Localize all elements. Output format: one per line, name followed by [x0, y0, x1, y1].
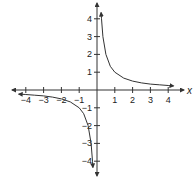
curve-positive-branch: [101, 13, 173, 86]
y-tick-label: −1: [82, 103, 92, 113]
y-tick-label: 1: [87, 67, 92, 77]
y-tick-label: 4: [87, 14, 92, 24]
y-tick-label: 2: [87, 49, 92, 59]
x-axis-label: x: [186, 85, 193, 96]
x-tick-label: 4: [166, 95, 171, 105]
hyperbola-chart: x −4−3−2−11234 4321−1−2−3−4: [0, 0, 196, 179]
x-tick-label: 1: [112, 95, 117, 105]
y-tick-label: 3: [87, 32, 92, 42]
y-tick-label: −4: [82, 156, 92, 166]
x-tick-label: 3: [148, 95, 153, 105]
x-tick-label: −4: [21, 95, 31, 105]
x-tick-label: 2: [130, 95, 135, 105]
